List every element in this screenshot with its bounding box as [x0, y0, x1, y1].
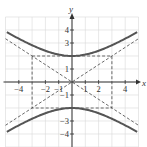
y-axis-label: y: [68, 4, 73, 14]
svg-text:3: 3: [65, 38, 69, 48]
svg-text:−4: −4: [60, 129, 70, 139]
hyperbola-plot: −4−2−1124431−1−3−4 x y: [0, 0, 147, 147]
svg-text:−2: −2: [41, 84, 50, 94]
axes: [4, 13, 142, 147]
svg-text:−4: −4: [14, 84, 24, 94]
svg-text:−3: −3: [60, 116, 69, 126]
svg-text:−1: −1: [60, 90, 69, 100]
svg-text:2: 2: [96, 84, 100, 94]
svg-text:1: 1: [83, 84, 87, 94]
x-axis-label: x: [141, 78, 146, 88]
svg-text:1: 1: [65, 64, 69, 74]
svg-text:4: 4: [123, 84, 128, 94]
